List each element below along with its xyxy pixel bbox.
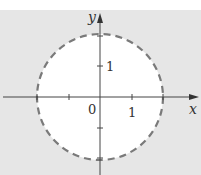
y-axis-label: y xyxy=(87,9,97,25)
origin-label: 0 xyxy=(88,102,96,117)
x-axis-label: x xyxy=(189,101,197,117)
x-tick-label: 1 xyxy=(128,105,136,120)
region-diagram: y x 0 1 1 xyxy=(0,0,201,175)
y-tick-label: 1 xyxy=(106,59,114,74)
